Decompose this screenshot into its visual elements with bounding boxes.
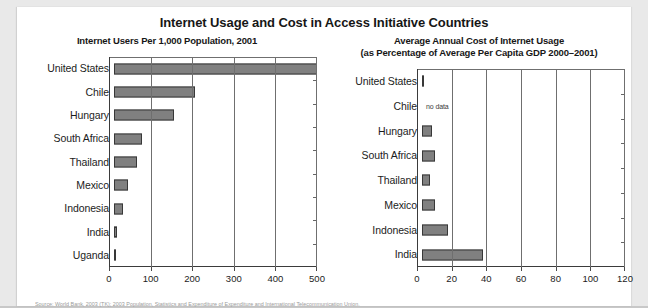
x-axis-tick (590, 267, 591, 271)
category-label: Indonesia (337, 225, 422, 236)
x-axis-tick (109, 267, 110, 271)
x-axis-tick (192, 267, 193, 271)
bar-track (114, 150, 317, 173)
x-axis-tick (452, 267, 453, 271)
bar-track (422, 119, 625, 144)
bar-row: Mexico (337, 193, 625, 218)
bar-rows-internet-users: United StatesChileHungarySouth AfricaTha… (25, 57, 317, 267)
bar-rows-internet-cost: United StatesChileno dataHungarySouth Af… (337, 69, 625, 267)
category-label: South Africa (337, 150, 422, 161)
x-axis-tick-label: 20 (446, 273, 457, 284)
x-axis-tick-label: 0 (414, 273, 419, 284)
category-label: Chile (337, 101, 422, 112)
bar-track (422, 193, 625, 218)
bar-track (114, 80, 317, 103)
bar-track (114, 244, 317, 267)
chart-title-internet-users: Internet Users Per 1,000 Population, 200… (17, 35, 317, 47)
bar (422, 175, 430, 186)
bar (114, 180, 128, 191)
chart-title-internet-cost: Average Annual Cost of Internet Usage (a… (327, 35, 631, 59)
x-axis-tick (234, 267, 235, 271)
bar-row: Thailand (25, 150, 317, 173)
bar-track (114, 220, 317, 243)
bar-chart-internet-cost: United StatesChileno dataHungarySouth Af… (337, 69, 625, 289)
x-axis-tick-label: 300 (226, 273, 242, 284)
source-note: Source: World Bank, 2003 (TK); 2003 Popu… (35, 301, 595, 308)
bar-row: Chile (25, 80, 317, 103)
bar-track (422, 69, 625, 94)
bar-row: Hungary (337, 119, 625, 144)
bar-track (422, 168, 625, 193)
x-axis-tick (624, 267, 625, 271)
bar (422, 125, 432, 136)
bar-row: Hungary (25, 104, 317, 127)
bar (422, 76, 424, 87)
category-label: Hungary (337, 126, 422, 137)
x-axis-tick (151, 267, 152, 271)
bar-track (114, 174, 317, 197)
x-axis-tick-label: 60 (516, 273, 527, 284)
bar-track (114, 104, 317, 127)
x-axis-tick-label: 40 (481, 273, 492, 284)
bar (114, 63, 317, 74)
page-title: Internet Usage and Cost in Access Initia… (17, 15, 631, 30)
figure-sheet: Internet Usage and Cost in Access Initia… (17, 7, 631, 306)
bar-row: Thailand (337, 168, 625, 193)
category-label: United States (337, 76, 422, 87)
category-label: Chile (25, 87, 114, 98)
bar-track (114, 57, 317, 80)
x-axis-tick (417, 267, 418, 271)
category-label: South Africa (25, 133, 114, 144)
bar-chart-internet-users: United StatesChileHungarySouth AfricaTha… (25, 57, 317, 289)
category-label: Thailand (25, 157, 114, 168)
chart-title-internet-cost-line2: (as Percentage of Average Per Capita GDP… (327, 47, 631, 59)
bar-track (114, 197, 317, 220)
chart-title-internet-cost-line1: Average Annual Cost of Internet Usage (327, 35, 631, 47)
bar-row: India (25, 220, 317, 243)
bar (114, 133, 142, 144)
bar-track (422, 218, 625, 243)
category-label: India (25, 227, 114, 238)
bar (422, 200, 435, 211)
x-axis-tick (521, 267, 522, 271)
bar-row: Mexico (25, 174, 317, 197)
bar (114, 250, 116, 261)
bar-track (422, 143, 625, 168)
bar-row: Indonesia (25, 197, 317, 220)
bar-row: Indonesia (337, 218, 625, 243)
category-label: Mexico (337, 200, 422, 211)
category-label: Uganda (25, 250, 114, 261)
bar-track (422, 242, 625, 267)
bar (114, 110, 174, 121)
bar-row: India (337, 242, 625, 267)
bar (114, 226, 117, 237)
x-axis-tick (486, 267, 487, 271)
chart-panel-internet-cost: Average Annual Cost of Internet Usage (a… (327, 35, 631, 297)
bar-row: United States (337, 69, 625, 94)
bar-row: United States (25, 57, 317, 80)
x-axis-tick-label: 200 (184, 273, 200, 284)
bar (114, 203, 123, 214)
x-axis-tick-label: 400 (267, 273, 283, 284)
x-axis-tick-label: 120 (617, 273, 633, 284)
category-label: Mexico (25, 180, 114, 191)
category-label: India (337, 249, 422, 260)
bar (422, 224, 448, 235)
x-axis-tick (316, 267, 317, 271)
no-data-label: no data (426, 103, 449, 110)
x-axis-tick-label: 80 (550, 273, 561, 284)
bar (422, 249, 483, 260)
x-axis-tick-label: 100 (143, 273, 159, 284)
x-axis-tick (275, 267, 276, 271)
bar-row: Chileno data (337, 94, 625, 119)
bar-row: Uganda (25, 244, 317, 267)
category-label: Thailand (337, 175, 422, 186)
bar (114, 86, 195, 97)
category-label: Hungary (25, 110, 114, 121)
bar (422, 150, 435, 161)
x-axis-internet-cost: 020406080100120 (417, 267, 625, 289)
bar-track (114, 127, 317, 150)
x-axis-tick-label: 100 (582, 273, 598, 284)
bar-row: South Africa (25, 127, 317, 150)
